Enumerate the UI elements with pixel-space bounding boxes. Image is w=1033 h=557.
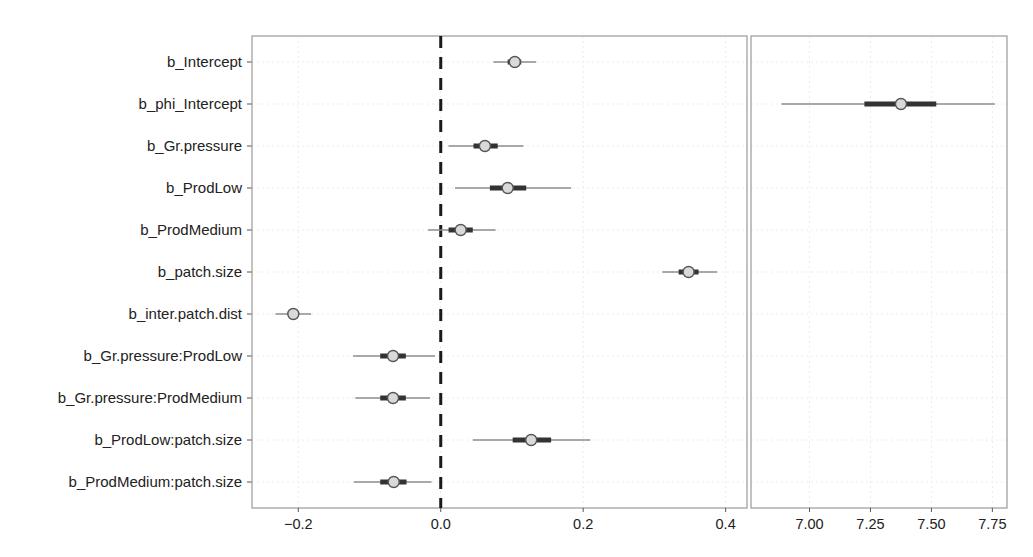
- interval-b-gr-pressure: [449, 141, 524, 152]
- y-tick-label: b_Gr.pressure:ProdLow: [84, 347, 243, 364]
- y-tick-label: b_ProdMedium:patch.size: [69, 473, 242, 490]
- point-estimate-marker: [479, 141, 490, 152]
- x-tick-label: 0.0: [431, 516, 451, 532]
- point-estimate-marker: [288, 309, 299, 320]
- y-tick-label: b_ProdLow:patch.size: [94, 431, 242, 448]
- x-tick-label: 7.00: [795, 516, 823, 532]
- interval-b-prodmedium-patch-size: [354, 477, 432, 488]
- point-estimate-marker: [455, 225, 466, 236]
- panel-frame: [751, 36, 1007, 508]
- point-estimate-marker: [388, 351, 399, 362]
- interval-b-phi-intercept: [781, 99, 994, 110]
- x-tick-label: 7.25: [856, 516, 884, 532]
- y-tick-label: b_ProdLow: [166, 179, 242, 196]
- x-tick-label: −0.2: [284, 516, 313, 532]
- y-tick-label: b_Gr.pressure: [147, 137, 242, 154]
- right-panel: 7.007.257.507.75: [751, 36, 1007, 532]
- point-estimate-marker: [895, 99, 906, 110]
- interval-b-intercept: [493, 57, 536, 68]
- point-estimate-marker: [509, 57, 520, 68]
- interval-b-prodlow: [455, 183, 571, 194]
- x-tick-label: 0.2: [573, 516, 593, 532]
- point-estimate-marker: [683, 267, 694, 278]
- x-tick-label: 0.4: [716, 516, 736, 532]
- interval-b-gr-pressure-prodmedium: [355, 393, 430, 404]
- y-tick-label: b_Intercept: [167, 53, 243, 70]
- y-tick-label: b_patch.size: [158, 263, 242, 280]
- y-tick-label: b_Gr.pressure:ProdMedium: [58, 389, 242, 406]
- point-estimate-marker: [388, 393, 399, 404]
- y-tick-label: b_phi_Intercept: [139, 95, 243, 112]
- x-tick-label: 7.75: [978, 516, 1006, 532]
- interval-b-prodlow-patch-size: [473, 435, 591, 446]
- interval-b-gr-pressure-prodlow: [353, 351, 435, 362]
- interval-b-inter-patch-dist: [276, 309, 312, 320]
- interval-b-patch-size: [662, 267, 717, 278]
- point-estimate-marker: [388, 477, 399, 488]
- y-tick-label: b_inter.patch.dist: [129, 305, 243, 322]
- y-tick-label: b_ProdMedium: [140, 221, 242, 238]
- x-tick-label: 7.50: [917, 516, 945, 532]
- point-estimate-marker: [526, 435, 537, 446]
- coefficient-interval-chart: b_Interceptb_phi_Interceptb_Gr.pressureb…: [0, 0, 1033, 557]
- interval-b-prodmedium: [428, 225, 496, 236]
- point-estimate-marker: [502, 183, 513, 194]
- y-axis-labels: b_Interceptb_phi_Interceptb_Gr.pressureb…: [58, 53, 252, 490]
- left-panel: −0.20.00.20.4: [252, 36, 747, 532]
